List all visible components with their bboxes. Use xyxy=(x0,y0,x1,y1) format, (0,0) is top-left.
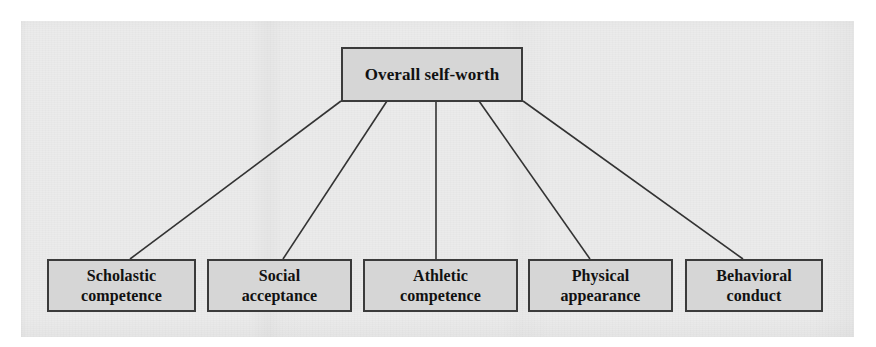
node-label-line-1: Social xyxy=(238,266,322,286)
node-label-line-1: Athletic xyxy=(396,266,485,286)
node-scholastic-competence: Scholastic competence xyxy=(47,259,196,312)
node-label-line-2: conduct xyxy=(712,286,796,306)
figure-canvas: Overall self-worth Scholastic competence… xyxy=(0,0,876,347)
node-label-line-2: appearance xyxy=(556,286,644,306)
node-physical-appearance: Physical appearance xyxy=(528,259,673,312)
node-label-line-2: competence xyxy=(396,286,485,306)
node-label-athletic-competence: Athletic competence xyxy=(396,266,485,305)
node-label-behavioral-conduct: Behavioral conduct xyxy=(712,266,796,305)
node-label-line-1: Scholastic xyxy=(77,266,166,286)
node-label-line-2: competence xyxy=(77,286,166,306)
node-label-line-1: Behavioral xyxy=(712,266,796,286)
node-label-scholastic-competence: Scholastic competence xyxy=(77,266,166,305)
node-label-line-1: Physical xyxy=(556,266,644,286)
node-behavioral-conduct: Behavioral conduct xyxy=(685,259,823,312)
node-label-social-acceptance: Social acceptance xyxy=(238,266,322,305)
node-label-overall-self-worth: Overall self-worth xyxy=(365,65,499,85)
node-overall-self-worth: Overall self-worth xyxy=(341,47,523,102)
node-social-acceptance: Social acceptance xyxy=(207,259,352,312)
node-athletic-competence: Athletic competence xyxy=(363,259,518,312)
node-label-physical-appearance: Physical appearance xyxy=(556,266,644,305)
node-label-line-2: acceptance xyxy=(238,286,322,306)
